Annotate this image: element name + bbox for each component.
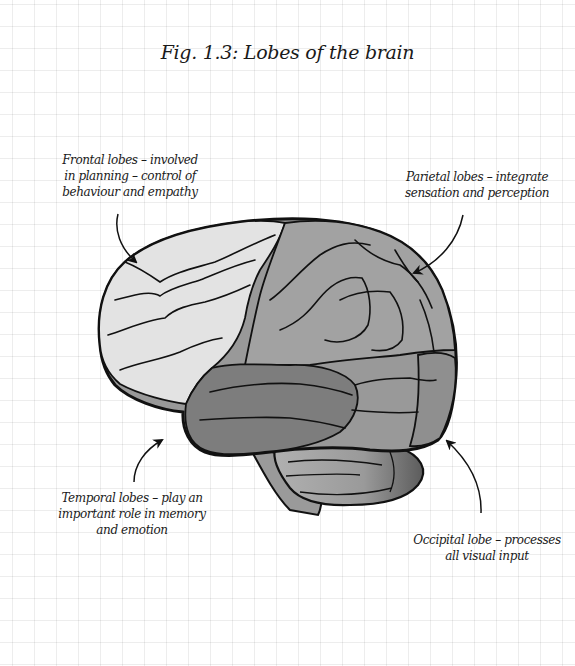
occipital-arrow [447,441,481,513]
temporal-arrow [134,440,162,482]
brain-diagram [0,0,575,666]
